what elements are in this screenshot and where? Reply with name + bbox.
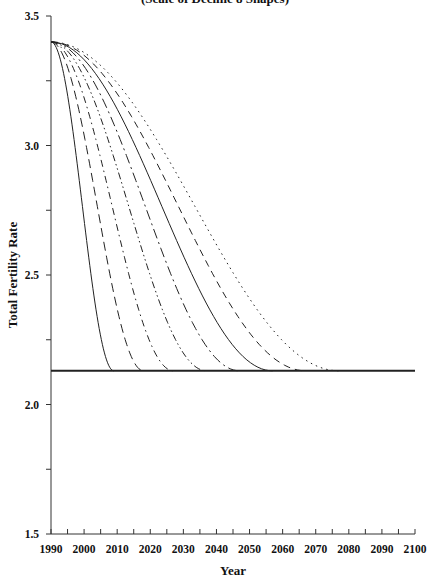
x-tick-label: 2090 [370, 543, 393, 555]
x-tick-label: 2100 [404, 543, 427, 555]
x-tick-label: 2040 [205, 543, 228, 555]
x-tick-label: 2020 [139, 543, 162, 555]
x-tick-label: 2060 [271, 543, 294, 555]
x-tick-label: 2070 [304, 543, 327, 555]
y-tick-label: 2.0 [25, 399, 40, 411]
series-line [51, 42, 273, 371]
x-tick-label: 2000 [73, 543, 96, 555]
x-axis-title: Year [220, 563, 246, 578]
series-line [51, 42, 306, 371]
series-line [51, 42, 240, 371]
series-line [51, 42, 173, 371]
y-tick-label: 2.5 [25, 269, 40, 281]
x-tick-label: 1990 [40, 543, 63, 555]
series-layer [51, 42, 415, 371]
axes: 1990200020102020203020402050206020702080… [25, 10, 427, 555]
y-axis-title: Total Fertility Rate [5, 222, 20, 329]
x-tick-label: 2050 [238, 543, 261, 555]
series-line [51, 42, 339, 371]
series-line [51, 42, 144, 371]
x-tick-label: 2030 [172, 543, 195, 555]
x-tick-label: 2010 [106, 543, 129, 555]
line-chart: 1990200020102020203020402050206020702080… [0, 0, 430, 581]
x-tick-label: 2080 [337, 543, 360, 555]
y-tick-label: 3.5 [25, 10, 40, 22]
y-tick-label: 1.5 [25, 528, 40, 540]
y-tick-label: 3.0 [25, 140, 40, 152]
